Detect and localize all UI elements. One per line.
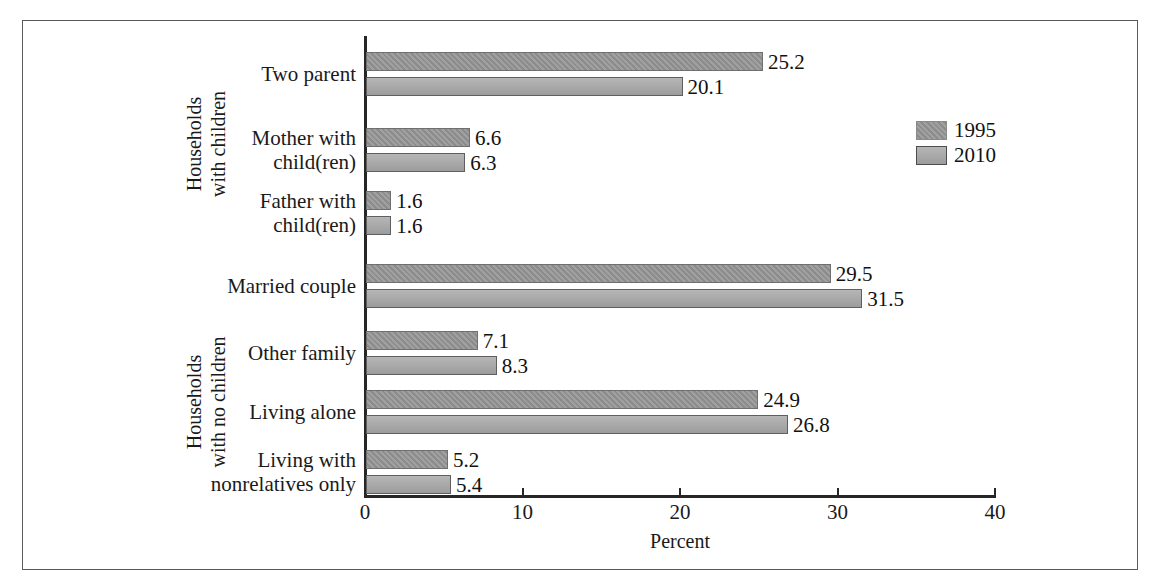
bar-value-label: 25.2 — [768, 50, 805, 75]
legend-swatch-1995-icon — [916, 121, 947, 140]
bar-1995[interactable] — [366, 191, 391, 210]
legend-item-1995[interactable]: 1995 — [916, 118, 996, 143]
bar-2010[interactable] — [366, 153, 465, 172]
bar-value-label: 20.1 — [688, 75, 725, 100]
category-label: Married couple — [227, 274, 356, 298]
figure: 010203040 Percent Households with childr… — [0, 0, 1168, 587]
x-tick-label-30: 30 — [827, 500, 848, 525]
bar-value-label: 5.4 — [456, 473, 482, 498]
bar-1995[interactable] — [366, 264, 831, 283]
bar-value-label: 6.3 — [470, 151, 496, 176]
bar-value-label: 26.8 — [793, 413, 830, 438]
bar-value-label: 31.5 — [867, 287, 904, 312]
bar-2010[interactable] — [366, 415, 788, 434]
bar-value-label: 29.5 — [836, 262, 873, 287]
chart-legend: 1995 2010 — [916, 118, 996, 168]
category-label: Father with child(ren) — [260, 189, 356, 237]
category-label: Living with nonrelatives only — [211, 448, 356, 496]
x-tick-30 — [837, 488, 839, 496]
category-label: Mother with child(ren) — [252, 126, 356, 174]
x-tick-label-0: 0 — [360, 500, 371, 525]
bar-value-label: 1.6 — [396, 189, 422, 214]
bar-1995[interactable] — [366, 450, 448, 469]
bar-1995[interactable] — [366, 390, 758, 409]
x-axis-title: Percent — [650, 530, 710, 553]
bar-2010[interactable] — [366, 475, 451, 494]
bar-2010[interactable] — [366, 356, 497, 375]
bar-value-label: 5.2 — [453, 448, 479, 473]
bar-2010[interactable] — [366, 289, 862, 308]
bar-1995[interactable] — [366, 52, 763, 71]
x-tick-40 — [994, 488, 996, 496]
chart-plot-area: 010203040 Percent Households with childr… — [0, 0, 1168, 587]
x-tick-label-40: 40 — [985, 500, 1006, 525]
legend-item-2010[interactable]: 2010 — [916, 143, 996, 168]
category-label: Two parent — [261, 62, 356, 86]
bar-2010[interactable] — [366, 216, 391, 235]
legend-label-1995: 1995 — [954, 118, 996, 143]
bar-1995[interactable] — [366, 331, 478, 350]
bar-value-label: 1.6 — [396, 214, 422, 239]
bar-value-label: 24.9 — [763, 388, 800, 413]
group-label-households-with-children: Households with children — [182, 54, 230, 234]
bar-value-label: 7.1 — [483, 329, 509, 354]
bar-value-label: 8.3 — [502, 354, 528, 379]
bar-1995[interactable] — [366, 128, 470, 147]
legend-swatch-2010-icon — [916, 146, 947, 165]
category-label: Other family — [248, 341, 356, 365]
x-tick-label-10: 10 — [512, 500, 533, 525]
bar-2010[interactable] — [366, 77, 683, 96]
x-tick-10 — [522, 488, 524, 496]
legend-label-2010: 2010 — [954, 143, 996, 168]
bar-value-label: 6.6 — [475, 126, 501, 151]
category-label: Living alone — [249, 400, 356, 424]
x-tick-label-20: 20 — [670, 500, 691, 525]
x-tick-20 — [679, 488, 681, 496]
